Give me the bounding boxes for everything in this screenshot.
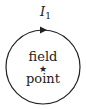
current-label: I1 <box>39 4 51 21</box>
field-text: field <box>29 49 58 64</box>
point-text: point <box>26 71 61 86</box>
current-loop-diagram: I1 field ★ point <box>0 0 86 109</box>
direction-arrow-icon <box>40 27 47 34</box>
